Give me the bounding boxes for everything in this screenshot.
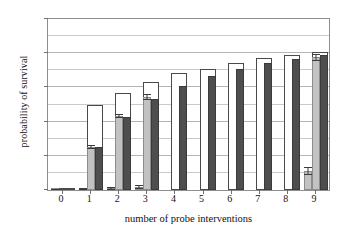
error-bar-cap — [79, 189, 87, 190]
bar-light-9 — [312, 57, 320, 190]
bar-dark-2 — [123, 117, 131, 190]
survival-probability-bar-chart: probability of survival number of probe … — [0, 0, 346, 234]
error-bar-light-1 — [87, 145, 95, 149]
bar-dark-6 — [236, 69, 244, 190]
bar-white-0 — [59, 188, 75, 190]
bar-light-2 — [115, 116, 123, 190]
error-bar-light-small-0 — [51, 189, 59, 190]
error-bar-cap — [87, 148, 95, 149]
error-bar-cap — [304, 174, 312, 175]
y-tick-mark — [44, 18, 48, 19]
error-bar-light-small-1 — [79, 188, 87, 190]
x-tick-label: 1 — [76, 194, 102, 204]
error-bar-light-3 — [143, 94, 151, 100]
bar-dark-7 — [264, 63, 272, 190]
y-tick-mark — [44, 121, 48, 122]
x-tick-label: 2 — [104, 194, 130, 204]
error-bar-cap — [107, 189, 115, 190]
plot-inner — [48, 19, 329, 190]
x-tick-label: 3 — [132, 194, 158, 204]
x-tick-label: 5 — [189, 194, 215, 204]
error-bar-light-small-9 — [304, 167, 312, 176]
plot-area — [47, 18, 330, 191]
bar-dark-5 — [208, 76, 216, 190]
bar-light-1 — [87, 147, 95, 190]
error-bar-cap — [312, 54, 320, 55]
error-bar-cap — [115, 114, 123, 115]
error-bar-light-small-3 — [135, 185, 143, 190]
error-bar-cap — [135, 188, 143, 189]
error-bar-light-small-2 — [107, 187, 115, 190]
bar-light-3 — [143, 97, 151, 190]
error-bar-cap — [51, 189, 59, 190]
gridline — [48, 35, 329, 36]
y-tick-mark — [44, 86, 48, 87]
y-tick-mark — [44, 155, 48, 156]
y-axis-title: probability of survival — [18, 32, 29, 172]
y-tick-mark — [44, 189, 48, 190]
error-bar-cap — [312, 60, 320, 61]
bar-dark-1 — [95, 147, 103, 190]
x-tick-label: 0 — [48, 194, 74, 204]
bar-dark-9 — [320, 55, 328, 190]
x-axis-title: number of probe interventions — [47, 213, 330, 224]
bar-dark-4 — [179, 86, 187, 190]
error-bar-cap — [304, 167, 312, 168]
error-bar-cap — [107, 187, 115, 188]
gridline — [48, 52, 329, 53]
x-tick-label: 8 — [273, 194, 299, 204]
y-tick-mark — [44, 52, 48, 53]
error-bar-cap — [143, 99, 151, 100]
error-bar-cap — [143, 94, 151, 95]
error-bar-light-9 — [312, 54, 320, 60]
x-tick-label: 9 — [301, 194, 327, 204]
error-bar-light-2 — [115, 114, 123, 118]
x-tick-label: 6 — [217, 194, 243, 204]
error-bar-cap — [87, 145, 95, 146]
x-tick-label: 7 — [245, 194, 271, 204]
bar-dark-3 — [151, 99, 159, 190]
error-bar-cap — [115, 117, 123, 118]
x-tick-label: 4 — [160, 194, 186, 204]
bar-dark-8 — [292, 59, 300, 190]
error-bar-cap — [135, 185, 143, 186]
